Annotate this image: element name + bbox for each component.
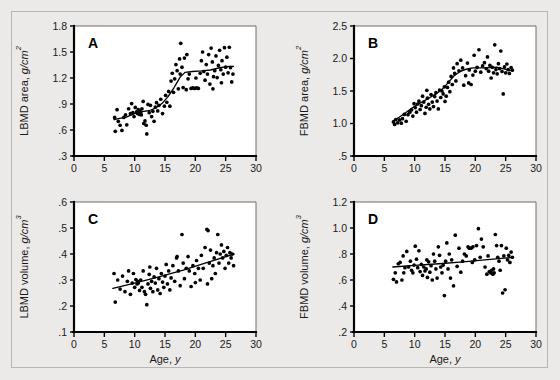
data-point (452, 284, 456, 288)
y-tick-label: 1.2 (52, 72, 67, 84)
data-point (443, 100, 447, 104)
data-point (425, 258, 429, 262)
data-point (127, 107, 131, 111)
y-tick-label: 1.5 (332, 85, 347, 97)
data-point (180, 233, 184, 237)
data-point (168, 288, 172, 292)
x-tick-label: 20 (469, 338, 481, 350)
data-point (201, 50, 205, 54)
y-axis-title: FBMD volume, g/cm3 (294, 214, 310, 319)
x-axis-title: Age, y (149, 353, 182, 365)
x-tick-label: 0 (351, 338, 357, 350)
figure-root: .3.6.91.21.51.8051015202530LBMD area, g/… (0, 0, 560, 380)
data-point (164, 263, 168, 267)
data-point (430, 100, 434, 104)
data-point (475, 244, 479, 248)
data-point (392, 278, 396, 282)
y-tick-label: .5 (58, 222, 67, 234)
data-point (500, 244, 504, 248)
data-point (412, 102, 416, 106)
data-point (477, 227, 481, 231)
data-point (127, 269, 131, 273)
y-tick-label: .6 (58, 124, 67, 136)
data-point (453, 233, 457, 237)
data-point (227, 45, 231, 49)
data-point (121, 274, 125, 278)
data-point (450, 83, 454, 87)
data-point (132, 272, 136, 276)
data-point (116, 119, 120, 123)
data-point (435, 99, 439, 103)
data-point (461, 66, 465, 70)
x-tick-label: 15 (159, 338, 171, 350)
panel-d-plot: .2.4.6.81.01.2051015202530FBMD volume, g… (294, 190, 546, 366)
data-point (220, 81, 224, 85)
x-tick-label: 30 (250, 338, 262, 350)
data-point (495, 244, 499, 248)
data-point (200, 59, 204, 63)
data-point (400, 278, 404, 282)
data-point (486, 254, 490, 258)
data-point (161, 112, 165, 116)
data-point (435, 276, 439, 280)
data-point (505, 62, 509, 66)
data-point (480, 237, 484, 241)
data-point (123, 290, 127, 294)
data-point (500, 70, 504, 74)
data-point (209, 46, 213, 50)
data-point (419, 104, 423, 108)
y-tick-label: .1 (58, 326, 67, 338)
data-point (499, 49, 503, 53)
y-axis-title: LBMD volume, g/cm3 (14, 215, 30, 319)
x-tick-label: 25 (220, 162, 232, 174)
data-point (116, 278, 120, 282)
data-point (115, 108, 119, 112)
data-point (230, 80, 234, 84)
data-point (497, 259, 501, 263)
panel-letter: D (368, 211, 378, 227)
data-point (140, 285, 144, 289)
data-point (209, 248, 213, 252)
data-point (401, 117, 405, 121)
data-point (507, 253, 511, 257)
data-point (214, 54, 218, 58)
data-point (187, 72, 191, 76)
data-point (398, 261, 402, 265)
y-tick-label: .2 (58, 300, 67, 312)
data-point (139, 113, 143, 117)
panel-a-plot: .3.6.91.21.51.8051015202530LBMD area, g/… (14, 14, 266, 190)
data-point (183, 56, 187, 60)
data-point (445, 241, 449, 245)
y-axis-title: LBMD area, g/cm2 (14, 45, 30, 136)
data-point (417, 249, 421, 253)
data-point (399, 121, 403, 125)
data-point (477, 48, 481, 52)
panel-letter: A (88, 35, 98, 51)
data-point (502, 254, 506, 258)
data-point (443, 294, 447, 298)
data-point (203, 78, 207, 82)
data-point (452, 66, 456, 70)
panel-c-plot: .1.2.3.4.5.6051015202530LBMD volume, g/c… (14, 190, 266, 366)
data-point (498, 268, 502, 272)
data-point (145, 303, 149, 307)
data-point (447, 252, 451, 256)
panel-a: .3.6.91.21.51.8051015202530LBMD area, g/… (14, 14, 266, 190)
data-point (133, 106, 137, 110)
data-point (492, 71, 496, 75)
data-point (424, 105, 428, 109)
data-point (411, 114, 415, 118)
data-point (187, 269, 191, 273)
data-point (150, 279, 154, 283)
data-point (193, 281, 197, 285)
data-point (486, 55, 490, 59)
data-point (427, 102, 431, 106)
x-tick-label: 20 (189, 162, 201, 174)
data-point (113, 300, 117, 304)
data-point (211, 87, 215, 91)
data-point (218, 252, 222, 256)
data-point (218, 48, 222, 52)
data-point (113, 129, 117, 133)
data-point (497, 62, 501, 66)
data-point (146, 282, 150, 286)
